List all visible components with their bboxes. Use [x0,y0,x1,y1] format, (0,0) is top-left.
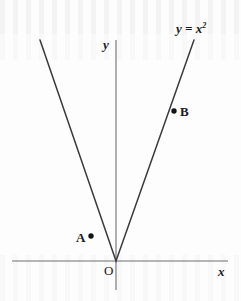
point-b-label: B [180,105,189,118]
point-a-dot [88,233,93,238]
x-axis-label: x [218,265,225,278]
curve-equation-label: y = x2 [176,22,206,35]
parabola-figure: y = x2 y x O A B [0,0,241,301]
origin-label: O [104,264,113,277]
parabola-curve [40,40,194,261]
curve-equation-base: y = x [176,21,202,36]
plot-canvas [0,0,241,301]
curve-equation-exponent: 2 [202,21,206,30]
point-b-dot [171,108,176,113]
y-axis-label: y [103,38,109,51]
point-a-label: A [76,231,85,244]
